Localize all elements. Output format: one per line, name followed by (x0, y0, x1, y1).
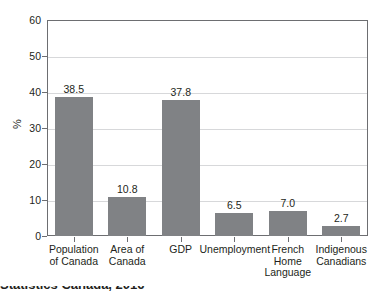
x-tick-label: IndigenousCanadians (307, 244, 377, 267)
x-axis-labels: Populationof CanadaArea ofCanadaGDPUnemp… (47, 244, 368, 286)
y-tick-mark (42, 236, 47, 237)
bar-value-label: 7.0 (280, 198, 295, 209)
x-tick-label-line: Canada (93, 256, 163, 268)
y-tick-label: 10 (5, 195, 41, 205)
y-tick-label: 60 (5, 15, 41, 25)
x-tick-mark (234, 237, 235, 242)
bar (108, 197, 146, 236)
bar (269, 211, 307, 236)
bar-value-label: 2.7 (334, 213, 349, 224)
y-tick-mark (42, 92, 47, 93)
y-axis-labels: 0102030405060 (0, 0, 41, 236)
y-tick-mark (42, 164, 47, 165)
y-tick-label: 0 (5, 231, 41, 241)
bar-chart: % 0102030405060 38.510.837.86.57.02.7 Po… (0, 0, 386, 295)
bar-value-label: 38.5 (64, 84, 84, 95)
y-tick-mark (42, 200, 47, 201)
x-tick-mark (181, 237, 182, 242)
bar-group: 10.8 (101, 20, 155, 236)
y-tick-label: 40 (5, 87, 41, 97)
y-tick-label: 50 (5, 51, 41, 61)
source-caption-text: Statistics Canada, 2016 (0, 286, 145, 293)
bar-group: 2.7 (315, 20, 369, 236)
y-tick-mark (42, 56, 47, 57)
bar (215, 213, 253, 236)
x-tick-mark (288, 237, 289, 242)
bar-group: 38.5 (47, 20, 101, 236)
x-tick-label-line: Language (253, 267, 323, 279)
bar-value-label: 6.5 (227, 200, 242, 211)
bar (322, 226, 360, 236)
x-tick-label-line: Canadians (307, 256, 377, 268)
y-tick-mark (42, 128, 47, 129)
bar-value-label: 37.8 (171, 87, 191, 98)
bar-group: 6.5 (208, 20, 262, 236)
y-tick-label: 20 (5, 159, 41, 169)
bar (162, 100, 200, 236)
bar-group: 7.0 (261, 20, 315, 236)
y-tick-label: 30 (5, 123, 41, 133)
bars-layer: 38.510.837.86.57.02.7 (47, 20, 368, 236)
x-tick-mark (127, 237, 128, 242)
x-tick-mark (74, 237, 75, 242)
x-tick-mark (341, 237, 342, 242)
bar-group: 37.8 (154, 20, 208, 236)
bar (55, 97, 93, 236)
source-caption: Statistics Canada, 2016 (0, 286, 386, 295)
x-tick-label-line: Indigenous (307, 244, 377, 256)
bar-value-label: 10.8 (117, 184, 137, 195)
